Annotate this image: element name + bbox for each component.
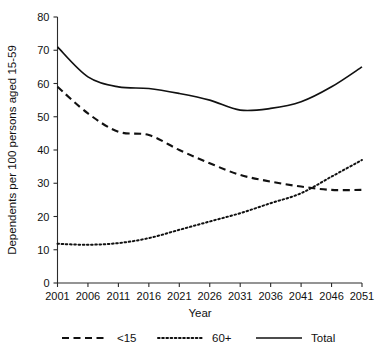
x-axis-title: Year [188,307,211,319]
line-chart: 01020304050607080 2001200620112016202120… [0,0,376,352]
data-series-group [58,47,363,245]
legend-label-60plus: 60+ [212,332,232,344]
x-tick-label: 2026 [198,290,222,302]
legend-label-total: Total [311,332,335,344]
x-tick-label: 2041 [289,290,313,302]
y-axis-title: Dependents per 100 persons aged 15-59 [6,45,18,255]
x-tick-label: 2051 [350,290,374,302]
series-line-60plus [58,160,363,245]
y-axis-ticks: 01020304050607080 [37,11,57,289]
x-tick-label: 2046 [319,290,343,302]
x-tick-label: 2031 [228,290,252,302]
chart-legend: <15 60+ Total [62,332,335,344]
series-line-under15 [58,87,363,190]
x-axis-ticks: 2001200620112016202120262031203620412046… [45,283,374,302]
x-tick-label: 2016 [137,290,161,302]
series-line-total [58,47,363,111]
y-tick-label: 60 [37,78,49,90]
chart-figure: 01020304050607080 2001200620112016202120… [0,0,376,352]
y-tick-label: 40 [37,144,49,156]
x-tick-label: 2001 [45,290,69,302]
x-tick-label: 2036 [258,290,282,302]
x-tick-label: 2021 [167,290,191,302]
y-tick-label: 0 [43,277,49,289]
y-tick-label: 70 [37,44,49,56]
y-tick-label: 50 [37,111,49,123]
y-tick-label: 30 [37,177,49,189]
y-tick-label: 20 [37,211,49,223]
y-tick-label: 80 [37,11,49,23]
y-tick-label: 10 [37,244,49,256]
x-tick-label: 2011 [107,290,131,302]
x-tick-label: 2006 [76,290,100,302]
legend-label-under15: <15 [117,332,137,344]
